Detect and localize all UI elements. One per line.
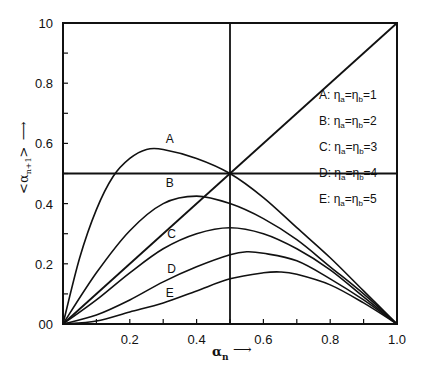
y-tick-label: 10 xyxy=(39,16,53,31)
x-tick-label: 0.8 xyxy=(321,332,339,347)
curve-label-b: B xyxy=(166,176,174,190)
chart: 0.20.40.60.81.0000.20.40.60.810 ABCDE A:… xyxy=(0,0,422,370)
y-axis-title-close: > xyxy=(16,146,31,157)
x-axis-title: α n ⟶ xyxy=(212,342,252,362)
legend: A: ηa=ηb=1B: ηa=ηb=2C: ηa=ηb=3D: ηa=ηb=4… xyxy=(319,88,378,208)
curve-labels: ABCDE xyxy=(166,132,176,300)
y-axis-arrow: ⟶ xyxy=(16,121,31,140)
y-tick-label: 0.2 xyxy=(35,257,53,272)
y-tick-label: 0.6 xyxy=(35,136,53,151)
legend-item-b: B: ηa=ηb=2 xyxy=(319,114,377,130)
legend-item-c: C: ηa=ηb=3 xyxy=(319,140,378,156)
legend-item-a: A: ηa=ηb=1 xyxy=(319,88,377,104)
x-tick-label: 0.6 xyxy=(254,332,272,347)
legend-item-e: E: ηa=ηb=5 xyxy=(319,192,377,208)
curve-label-e: E xyxy=(166,286,174,300)
x-tick-label: 0.2 xyxy=(121,332,139,347)
y-tick-label: 00 xyxy=(39,317,53,332)
legend-item-d: D: ηa=ηb=4 xyxy=(319,166,378,182)
x-tick-label: 0.4 xyxy=(188,332,206,347)
x-axis-title-main: α xyxy=(212,344,222,359)
svg-text:<αn+1> ⟶: <αn+1> ⟶ xyxy=(16,121,33,194)
y-tick-label: 0.8 xyxy=(35,76,53,91)
x-tick-label: 1.0 xyxy=(388,332,406,347)
x-axis-title-sub: n xyxy=(222,352,229,362)
y-axis-title-main: <α xyxy=(16,174,31,194)
curve-label-a: A xyxy=(166,132,174,146)
y-axis-title: <αn+1> ⟶ xyxy=(16,121,33,194)
y-axis-title-sub: n+1 xyxy=(24,157,33,174)
x-axis-arrow: ⟶ xyxy=(233,342,252,357)
y-tick-label: 0.4 xyxy=(35,197,53,212)
curve-label-c: C xyxy=(167,227,176,241)
curve-label-d: D xyxy=(167,262,176,276)
